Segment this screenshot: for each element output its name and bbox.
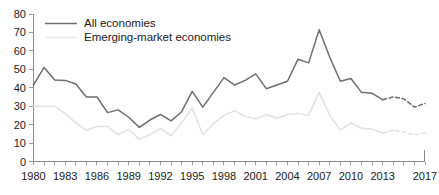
x-tick-label: 2013 xyxy=(370,170,394,182)
x-tick-label: 1989 xyxy=(116,170,140,182)
legend-label-emerging-market-economies: Emerging-market economies xyxy=(84,31,231,43)
legend-label-all-economies: All economies xyxy=(84,17,156,29)
x-tick-label: 2007 xyxy=(307,170,331,182)
y-tick-label: 40 xyxy=(14,82,26,94)
x-tick-label: 2001 xyxy=(243,170,267,182)
y-tick-label: 70 xyxy=(14,26,26,38)
x-tick-label: 1992 xyxy=(148,170,172,182)
y-tick-label: 20 xyxy=(14,119,26,131)
chart-container: 01020304050607080 1980198319861989199219… xyxy=(0,0,439,195)
x-tick-label: 1998 xyxy=(212,170,236,182)
series-line-all-economies xyxy=(34,30,383,128)
y-tick-label: 50 xyxy=(14,63,26,75)
chart-legend: All economies Emerging-market economies xyxy=(45,17,231,43)
x-tick-label: 2017 xyxy=(413,170,437,182)
y-tick-label: 80 xyxy=(14,8,26,20)
y-tick-label: 60 xyxy=(14,45,26,57)
series-line-emerging-market-economies-forecast xyxy=(383,130,425,135)
series-plot-area xyxy=(34,30,426,140)
x-tick-label: 2010 xyxy=(339,170,363,182)
line-chart: 01020304050607080 1980198319861989199219… xyxy=(0,0,439,195)
x-tick-label: 2004 xyxy=(275,170,299,182)
x-tick-label: 1986 xyxy=(85,170,109,182)
series-line-all-economies-forecast xyxy=(383,97,425,107)
y-axis: 01020304050607080 xyxy=(14,8,34,168)
x-axis: 1980198319861989199219951998200120042007… xyxy=(21,162,437,183)
y-tick-label: 30 xyxy=(14,100,26,112)
x-tick-label: 1980 xyxy=(21,170,45,182)
y-tick-label: 0 xyxy=(20,156,26,168)
y-tick-label: 10 xyxy=(14,137,26,149)
x-tick-label: 1983 xyxy=(53,170,77,182)
x-tick-label: 1995 xyxy=(180,170,204,182)
